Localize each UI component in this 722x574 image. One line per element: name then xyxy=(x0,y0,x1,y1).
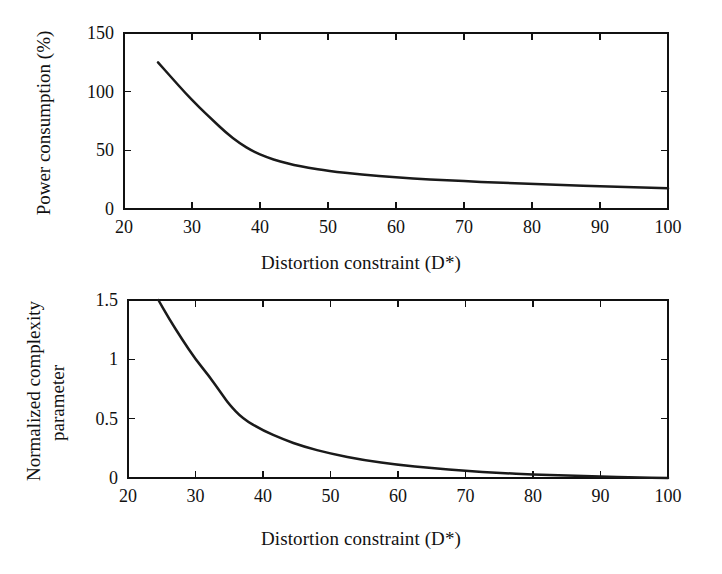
x-tick-label: 100 xyxy=(655,486,682,506)
data-curve xyxy=(158,300,668,478)
y-tick-label: 50 xyxy=(96,140,114,160)
x-tick-label: 90 xyxy=(591,217,609,237)
y-axis-label-top: Power consumption (%) xyxy=(33,3,55,243)
x-tick-label: 50 xyxy=(319,217,337,237)
x-tick-label: 80 xyxy=(523,217,541,237)
x-tick-label: 40 xyxy=(254,486,272,506)
x-tick-label: 30 xyxy=(187,486,205,506)
x-axis-label-top: Distortion constraint (D*) xyxy=(0,252,722,274)
y-tick-label: 100 xyxy=(87,82,114,102)
x-tick-label: 100 xyxy=(655,217,682,237)
y-tick-label: 0 xyxy=(109,468,118,488)
x-tick-label: 40 xyxy=(251,217,269,237)
x-tick-label: 20 xyxy=(119,486,137,506)
x-tick-label: 70 xyxy=(455,217,473,237)
data-curve xyxy=(158,62,668,188)
x-tick-label: 70 xyxy=(457,486,475,506)
y-tick-label: 1.5 xyxy=(96,290,119,310)
x-tick-label: 60 xyxy=(389,486,407,506)
y-axis-label-bottom-line1: Normalized complexity xyxy=(23,271,45,511)
x-tick-label: 30 xyxy=(183,217,201,237)
x-tick-label: 60 xyxy=(387,217,405,237)
x-axis-label-bottom: Distortion constraint (D*) xyxy=(0,528,722,550)
x-tick-label: 50 xyxy=(322,486,340,506)
figure-container: 2030405060708090100050100150 Power consu… xyxy=(0,0,722,574)
y-tick-label: 0 xyxy=(105,199,114,219)
y-axis-label-bottom-line2: parameter xyxy=(47,283,69,523)
x-tick-label: 20 xyxy=(115,217,133,237)
y-tick-label: 1 xyxy=(109,349,118,369)
plot-frame xyxy=(124,33,668,209)
power-consumption-plot: 2030405060708090100050100150 xyxy=(0,0,722,285)
chart-panel-power-consumption: 2030405060708090100050100150 Power consu… xyxy=(0,0,722,285)
y-tick-label: 0.5 xyxy=(96,409,119,429)
x-tick-label: 80 xyxy=(524,486,542,506)
x-tick-label: 90 xyxy=(592,486,610,506)
y-tick-label: 150 xyxy=(87,23,114,43)
plot-frame xyxy=(128,300,668,478)
